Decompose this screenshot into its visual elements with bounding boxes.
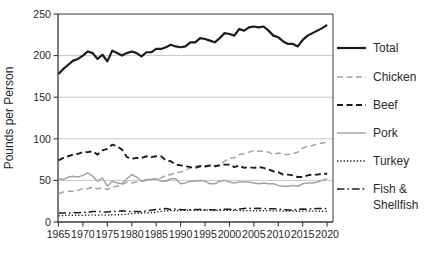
legend-label-beef: Beef: [373, 98, 398, 112]
legend-item-fish-shellfish: Fish &Shellfish: [337, 182, 418, 212]
x-tick-label-1980: 1980: [120, 228, 144, 240]
x-tick-label-1965: 1965: [47, 228, 71, 240]
y-tick-label-250: 250: [33, 8, 51, 20]
legend-item-chicken: Chicken: [337, 70, 416, 84]
series-line-turkey: [58, 210, 327, 216]
legend-label-fish-shellfish: Fish &: [373, 182, 407, 196]
legend-item-beef: Beef: [337, 98, 398, 112]
x-tick-label-2005: 2005: [242, 228, 266, 240]
series-line-fish-shellfish: [58, 208, 327, 213]
x-tick-label-1990: 1990: [169, 228, 193, 240]
x-tick-label-2000: 2000: [218, 228, 242, 240]
x-tick-label-1970: 1970: [71, 228, 95, 240]
x-tick-label-1985: 1985: [144, 228, 168, 240]
series-line-beef: [58, 145, 327, 177]
legend: TotalChickenBeefPorkTurkeyFish &Shellfis…: [337, 41, 418, 212]
legend-item-turkey: Turkey: [337, 154, 409, 168]
x-tick-label-2010: 2010: [267, 228, 291, 240]
legend-label-fish-shellfish-line2: Shellfish: [373, 198, 418, 212]
x-tick-label-1995: 1995: [193, 228, 217, 240]
x-tick-label-1975: 1975: [96, 228, 120, 240]
y-tick-label-150: 150: [33, 91, 51, 103]
x-tick-label-2020: 2020: [315, 228, 339, 240]
legend-item-total: Total: [337, 41, 398, 55]
y-tick-label-0: 0: [45, 216, 51, 228]
x-tick-label-2015: 2015: [291, 228, 315, 240]
chart-figure: Pounds per Person 0501001502002501965197…: [0, 0, 433, 257]
legend-item-pork: Pork: [337, 126, 399, 140]
legend-label-chicken: Chicken: [373, 70, 416, 84]
y-axis-title: Pounds per Person: [2, 67, 16, 170]
y-tick-label-100: 100: [33, 133, 51, 145]
gridlines-layer: [58, 56, 333, 181]
series-line-pork: [58, 173, 327, 186]
line-chart: Pounds per Person 0501001502002501965197…: [0, 0, 433, 257]
axes-layer: 0501001502002501965197019751980198519901…: [33, 8, 339, 240]
legend-label-turkey: Turkey: [373, 154, 409, 168]
y-tick-label-50: 50: [39, 174, 51, 186]
series-layer: [58, 25, 327, 216]
legend-label-total: Total: [373, 41, 398, 55]
series-line-total: [58, 25, 327, 74]
legend-label-pork: Pork: [373, 126, 399, 140]
y-tick-label-200: 200: [33, 49, 51, 61]
